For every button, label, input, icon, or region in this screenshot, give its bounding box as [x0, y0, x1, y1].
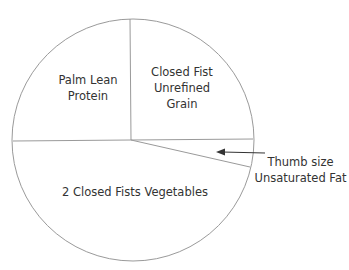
grain-line2: Unrefined: [137, 80, 227, 96]
pie-diagram: [0, 0, 349, 270]
arrow-shaft: [222, 152, 265, 153]
divider-horizontal-left: [13, 140, 131, 141]
segment-label-vegetables: 2 Closed Fists Vegetables: [50, 184, 220, 200]
vegetables-line1: 2 Closed Fists Vegetables: [50, 184, 220, 200]
callout-label-fat: Thumb size Unsaturated Fat: [252, 154, 349, 186]
grain-line3: Grain: [137, 96, 227, 112]
divider-horizontal-right: [131, 139, 253, 140]
protein-line1: Palm Lean: [48, 72, 128, 88]
segment-label-grain: Closed Fist Unrefined Grain: [137, 64, 227, 112]
protein-line2: Protein: [48, 88, 128, 104]
fat-line1: Thumb size: [252, 154, 349, 170]
divider-wedge: [131, 140, 250, 167]
arrow-head-icon: [216, 149, 225, 156]
fat-line2: Unsaturated Fat: [252, 170, 349, 186]
grain-line1: Closed Fist: [137, 64, 227, 80]
divider-vertical: [130, 19, 131, 140]
segment-label-protein: Palm Lean Protein: [48, 72, 128, 104]
